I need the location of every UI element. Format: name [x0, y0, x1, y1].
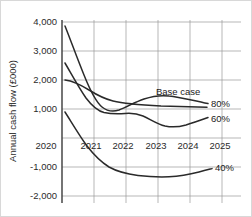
x-tick-label-2023: 2023: [145, 140, 166, 151]
y-tick-label-3000: 3,000: [33, 45, 57, 56]
series-labels: Base case 80% 60% 40%: [156, 86, 235, 173]
chart-canvas: 4,000 3,000 2,000 1,000 -1,000 -2,000 20…: [1, 1, 252, 217]
y-tick-label-1000: 1,000: [33, 103, 57, 114]
y-tick-label-neg2000: -2,000: [30, 190, 57, 201]
series-label-60: 60%: [211, 113, 231, 124]
series-label-base-case: Base case: [156, 86, 200, 97]
y-tick-label-4000: 4,000: [33, 16, 57, 27]
x-tick-label-2024: 2024: [177, 140, 198, 151]
cash-flow-chart: 4,000 3,000 2,000 1,000 -1,000 -2,000 20…: [0, 0, 252, 217]
y-tick-label-neg1000: -1,000: [30, 161, 57, 172]
series-label-80: 80%: [211, 98, 231, 109]
x-tick-labels: 2020 2021 2022 2023 2024 2025: [35, 140, 230, 151]
x-tick-label-2020: 2020: [35, 140, 56, 151]
x-tick-label-2022: 2022: [112, 140, 133, 151]
y-tick-label-2000: 2,000: [33, 74, 57, 85]
y-axis-title: Annual cash flow (£000): [7, 60, 18, 162]
x-tick-label-2025: 2025: [209, 140, 230, 151]
series-label-40: 40%: [215, 162, 235, 173]
y-tick-labels: 4,000 3,000 2,000 1,000 -1,000 -2,000: [30, 16, 57, 201]
